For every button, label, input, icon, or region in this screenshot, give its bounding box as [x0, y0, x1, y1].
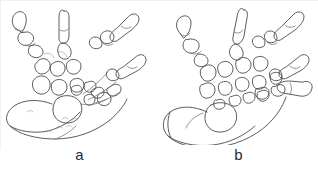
panel-label-b: b	[159, 145, 318, 165]
panel-label-a: a	[0, 145, 159, 165]
figure-panel-b: b	[159, 0, 318, 177]
limb-skeleton-drawing-b	[159, 0, 318, 145]
figure-panel-a: a	[0, 0, 159, 177]
limb-skeleton-drawing-a	[0, 0, 159, 145]
figure-root: a	[0, 0, 318, 177]
